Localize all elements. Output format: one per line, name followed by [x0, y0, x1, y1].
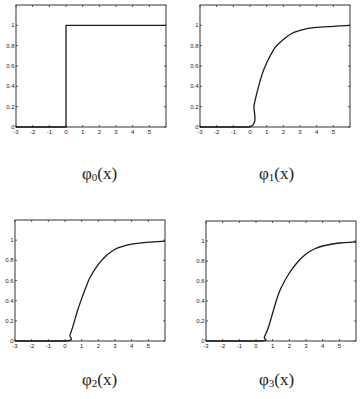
- y-tick-label: 0.2: [5, 318, 14, 324]
- x-tick-label: 1: [265, 129, 269, 135]
- caption-phi3: φ3(x): [259, 370, 294, 390]
- x-tick-label: 0: [254, 343, 258, 349]
- x-tick-label: 3: [298, 129, 302, 135]
- y-tick-label: 0.8: [190, 43, 199, 49]
- chart-phi0: -3-2-101234500.20.40.60.81: [0, 0, 182, 150]
- x-tick-label: -2: [214, 129, 220, 135]
- x-tick-label: 0: [63, 343, 67, 349]
- chart-phi1: -3-2-101234500.20.40.60.81: [182, 0, 364, 150]
- x-tick-label: 2: [288, 343, 292, 349]
- y-tick-label: 0.4: [5, 298, 14, 304]
- y-tick-label: 0.6: [190, 63, 199, 69]
- x-tick-label: 5: [332, 129, 336, 135]
- y-tick-label: 0.4: [6, 83, 15, 89]
- plot-phi2: -3-2-101234500.20.40.60.81 φ2(x): [0, 215, 182, 399]
- caption-phi1: φ1(x): [259, 164, 294, 184]
- axes-frame: [15, 220, 165, 341]
- x-tick-label: -1: [231, 129, 237, 135]
- x-tick-label: -1: [237, 343, 243, 349]
- y-tick-label: 1: [201, 238, 205, 244]
- x-tick-label: 2: [97, 343, 101, 349]
- x-tick-label: 1: [271, 343, 275, 349]
- x-tick-label: 1: [81, 129, 85, 135]
- y-tick-label: 0.6: [6, 63, 15, 69]
- plot-phi1: -3-2-101234500.20.40.60.81 φ1(x): [182, 0, 364, 200]
- chart-phi3: -3-2-101234500.20.40.60.81: [182, 215, 364, 365]
- x-tick-label: 5: [148, 129, 152, 135]
- caption-phi2: φ2(x): [82, 370, 117, 390]
- x-tick-label: 1: [80, 343, 84, 349]
- caption-base: φ: [82, 164, 92, 183]
- y-tick-label: 1: [10, 237, 14, 243]
- y-tick-label: 0.8: [5, 257, 14, 263]
- caption-argument: (x): [274, 164, 294, 183]
- x-tick-label: 5: [338, 343, 342, 349]
- x-tick-label: 4: [321, 343, 325, 349]
- axes-frame: [206, 221, 356, 341]
- plot-phi3: -3-2-101234500.20.40.60.81 φ3(x): [182, 215, 364, 399]
- x-tick-label: 4: [315, 129, 319, 135]
- series-line-phi1: [200, 25, 350, 127]
- y-tick-label: 0.2: [196, 318, 205, 324]
- caption-base: φ: [82, 370, 92, 389]
- y-tick-label: 0.4: [190, 83, 199, 89]
- caption-argument: (x): [274, 370, 294, 389]
- x-tick-label: -1: [46, 343, 52, 349]
- x-tick-label: -2: [29, 343, 35, 349]
- x-tick-label: -1: [47, 129, 53, 135]
- series-line-phi2: [15, 241, 165, 341]
- x-tick-label: -2: [30, 129, 36, 135]
- caption-base: φ: [259, 164, 269, 183]
- caption-phi0: φ0(x): [82, 164, 117, 184]
- plot-phi0: -3-2-101234500.20.40.60.81 φ0(x): [0, 0, 182, 200]
- x-tick-label: 3: [114, 129, 118, 135]
- caption-argument: (x): [97, 164, 117, 183]
- y-tick-label: 0.6: [196, 278, 205, 284]
- y-tick-label: 0.6: [5, 278, 14, 284]
- axes-frame: [200, 5, 350, 127]
- x-tick-label: 0: [248, 129, 252, 135]
- y-tick-label: 0.4: [196, 298, 205, 304]
- y-tick-label: 0.2: [6, 104, 15, 110]
- x-tick-label: 2: [282, 129, 286, 135]
- y-tick-label: 0.8: [6, 43, 15, 49]
- x-tick-label: 0: [64, 129, 68, 135]
- y-tick-label: 1: [11, 22, 15, 28]
- x-tick-label: 5: [147, 343, 151, 349]
- y-tick-label: 0.8: [196, 258, 205, 264]
- series-line-phi3: [206, 242, 356, 341]
- axes-frame: [16, 5, 166, 127]
- caption-argument: (x): [97, 370, 117, 389]
- x-tick-label: 3: [304, 343, 308, 349]
- x-tick-label: 3: [113, 343, 117, 349]
- series-line-phi0: [16, 25, 166, 127]
- x-tick-label: 4: [130, 343, 134, 349]
- y-tick-label: 0.2: [190, 104, 199, 110]
- chart-phi2: -3-2-101234500.20.40.60.81: [0, 215, 182, 365]
- y-tick-label: 1: [195, 22, 199, 28]
- x-tick-label: 2: [98, 129, 102, 135]
- caption-base: φ: [259, 370, 269, 389]
- x-tick-label: -2: [220, 343, 226, 349]
- x-tick-label: 4: [131, 129, 135, 135]
